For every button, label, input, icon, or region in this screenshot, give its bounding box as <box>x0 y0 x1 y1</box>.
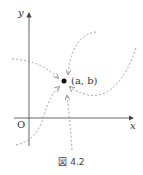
approach-paths <box>12 32 136 150</box>
origin-label: O <box>17 120 25 130</box>
path-from-left <box>12 59 58 78</box>
figure-caption: 図 4.2 <box>0 155 143 168</box>
diagram-canvas <box>0 0 143 175</box>
x-axis-label: x <box>130 121 136 131</box>
point-ab <box>62 79 67 84</box>
path-from-top <box>68 32 96 74</box>
point-label: (a, b) <box>71 76 98 86</box>
path-from-right <box>70 48 136 95</box>
path-from-bottom <box>67 96 72 150</box>
path-from-lower-left <box>16 87 59 145</box>
y-axis-label: y <box>18 8 24 18</box>
